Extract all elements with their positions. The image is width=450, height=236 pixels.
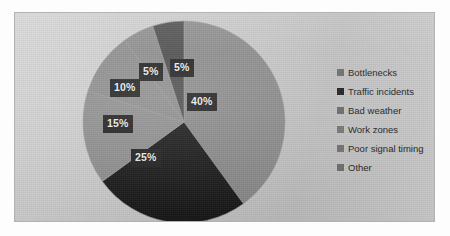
legend-swatch-icon: [337, 126, 344, 133]
legend-item-label: Other: [348, 163, 372, 173]
legend-item[interactable]: Work zones: [337, 120, 435, 139]
pie-chart: 40% 25% 15% 10% 5% 5%: [81, 19, 287, 222]
chart-frame: 40% 25% 15% 10% 5% 5% BottlenecksTraffic…: [14, 12, 435, 222]
legend-swatch-icon: [337, 69, 344, 76]
legend-item[interactable]: Other: [337, 158, 435, 177]
data-label-work-zones: 10%: [110, 79, 140, 97]
legend-item-label: Traffic incidents: [348, 87, 414, 97]
screenshot-root: 40% 25% 15% 10% 5% 5% BottlenecksTraffic…: [0, 0, 450, 236]
legend-item[interactable]: Poor signal timing: [337, 139, 435, 158]
data-label-poor-signal-timing: 5%: [139, 63, 163, 81]
data-label-bottlenecks: 40%: [187, 93, 217, 111]
legend-item[interactable]: Traffic incidents: [337, 82, 435, 101]
legend-item[interactable]: Bottlenecks: [337, 63, 435, 82]
legend-item-label: Bottlenecks: [348, 68, 397, 78]
legend-swatch-icon: [337, 145, 344, 152]
data-label-bad-weather: 15%: [103, 115, 133, 133]
legend-item-label: Poor signal timing: [348, 144, 424, 154]
legend-item[interactable]: Bad weather: [337, 101, 435, 120]
legend-swatch-icon: [337, 88, 344, 95]
plot-area: 40% 25% 15% 10% 5% 5% BottlenecksTraffic…: [15, 13, 435, 222]
legend-item-label: Work zones: [348, 125, 398, 135]
legend-swatch-icon: [337, 164, 344, 171]
data-label-traffic-incidents: 25%: [131, 149, 161, 167]
chart-legend: BottlenecksTraffic incidentsBad weatherW…: [337, 63, 435, 177]
legend-swatch-icon: [337, 107, 344, 114]
legend-item-label: Bad weather: [348, 106, 401, 116]
data-label-other: 5%: [170, 59, 194, 77]
